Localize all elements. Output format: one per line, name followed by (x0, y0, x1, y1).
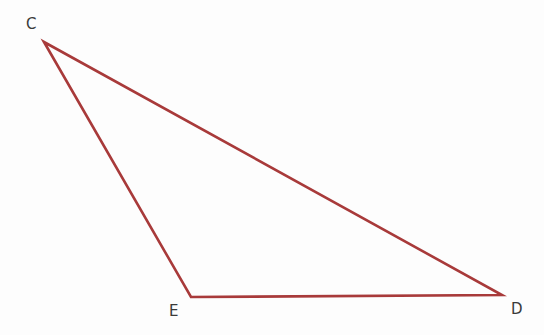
triangle-cde (44, 42, 502, 297)
vertex-label-c: C (26, 17, 36, 32)
triangle-canvas (0, 0, 544, 335)
triangle-diagram: C E D (0, 0, 544, 335)
vertex-label-e: E (169, 304, 178, 319)
vertex-label-d: D (511, 302, 523, 317)
